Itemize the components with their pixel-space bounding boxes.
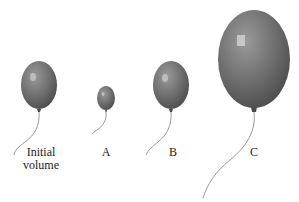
label-initial-volume: Initial volume [18,146,64,172]
label-c: C [244,146,264,159]
string-a [92,112,106,134]
balloon-initial [14,61,57,155]
balloon-c [203,10,290,198]
label-initial-line2: volume [18,159,64,172]
label-a: A [96,146,116,159]
balloon-b [146,61,189,155]
label-b: B [163,146,183,159]
balloon-a [92,86,115,134]
